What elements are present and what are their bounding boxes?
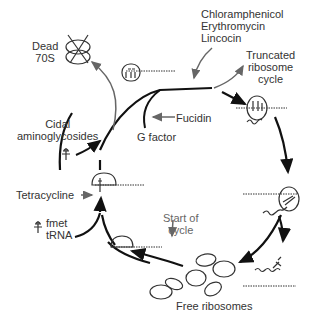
fmet-line1: fmet <box>46 217 72 229</box>
truncated-line3: cycle <box>246 73 295 85</box>
erythromycin-label: Erythromycin <box>201 20 284 32</box>
truncated-line2: ribosome <box>246 61 295 73</box>
g-factor-label: G factor <box>137 131 176 143</box>
chloramphenicol-label: Chloramphenicol <box>201 8 284 20</box>
fucidin-label: Fucidin <box>176 112 211 124</box>
fmet-trna-label: fmet tRNA <box>46 217 72 241</box>
lincocin-label: Lincocin <box>201 32 284 44</box>
protein-synthesis-inhibitors-label: Chloramphenicol Erythromycin Lincocin <box>201 8 284 44</box>
tetracycline-label: Tetracycline <box>16 189 74 201</box>
30s-with-trna-icon <box>92 173 116 192</box>
start-line2: cycle <box>163 224 198 236</box>
start-line1: Start of <box>163 212 198 224</box>
dead-70s-ribosome-icon <box>66 35 90 64</box>
elongating-ribosome-icon <box>247 96 267 124</box>
released-peptide-icon <box>255 257 281 272</box>
aminoglycoside-arrow <box>76 141 100 155</box>
cidal-aminoglycosides-label: Cidal aminoglycosides <box>17 118 98 142</box>
free-ribosomes-label: Free ribosomes <box>176 300 252 312</box>
terminating-ribosome-icon <box>263 187 299 215</box>
dead-70s-label-line1: Dead <box>32 40 58 52</box>
dead-70s-label-line2: 70S <box>32 52 58 64</box>
truncated-ribosome-cycle-label: Truncated ribosome cycle <box>246 49 295 85</box>
cidal-line2: aminoglycosides <box>17 130 98 142</box>
fmet-line2: tRNA <box>46 229 72 241</box>
cidal-line1: Cidal <box>17 118 98 130</box>
dead-70s-label: Dead 70S <box>32 40 58 64</box>
start-of-cycle-label: Start of cycle <box>163 212 198 236</box>
ribosome-with-trnas-icon <box>122 64 140 81</box>
ribosome-cycle-diagram: Dead 70S Chloramphenicol Erythromycin Li… <box>0 0 311 318</box>
truncated-line1: Truncated <box>246 49 295 61</box>
